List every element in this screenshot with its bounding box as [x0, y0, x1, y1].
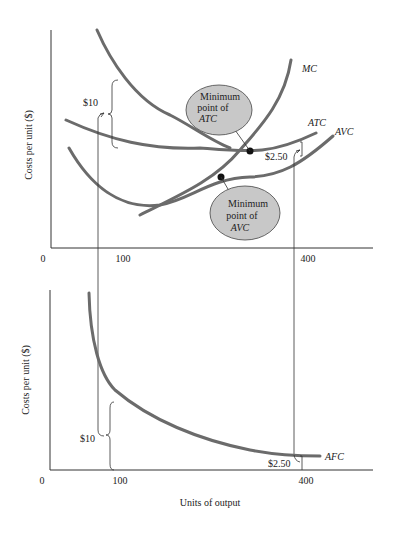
afc-400-label: $2.50 [268, 458, 291, 469]
top-tick-400: 400 [301, 253, 316, 264]
afc-curve [89, 293, 320, 456]
top-panel: Costs per unit ($) 0 100 400 Minimum poi… [23, 30, 373, 264]
mc-label: MC [301, 63, 317, 74]
atc-bubble-line2: point of [197, 102, 229, 113]
avc-bubble-line1: Minimum [228, 198, 268, 209]
atc-curve [66, 120, 316, 151]
afc-100-label: $10 [80, 433, 95, 444]
afc-100-brace [106, 402, 114, 470]
connector-100-hook [98, 430, 104, 436]
connector-100-arrow [98, 113, 104, 118]
atc-bubble-line3: ATC [198, 113, 217, 124]
avc-curve [69, 136, 333, 206]
bottom-tick-400: 400 [299, 475, 314, 486]
top-y-axis-label: Costs per unit ($) [23, 110, 35, 180]
bottom-y-axis-label: Costs per unit ($) [20, 345, 32, 415]
gap-400-brace [300, 142, 302, 156]
avc-bubble-line3: AVC [230, 222, 250, 233]
atc-bubble-line1: Minimum [200, 91, 240, 102]
bottom-tick-0: 0 [40, 475, 45, 486]
avc-label: AVC [334, 126, 354, 137]
atc-label: ATC [307, 117, 326, 128]
cost-curves-diagram: Costs per unit ($) 0 100 400 Minimum poi… [0, 0, 393, 533]
bottom-tick-100: 100 [113, 475, 128, 486]
bottom-x-axis-label: Units of output [180, 497, 241, 508]
mc-marginal-cost [140, 60, 291, 215]
top-tick-0: 0 [41, 253, 46, 264]
avc-bubble-line2: point of [226, 210, 258, 221]
afc-400-brace [300, 456, 302, 470]
gap-100-label: $10 [83, 97, 98, 108]
afc-label: AFC [324, 451, 344, 462]
top-tick-100: 100 [116, 253, 131, 264]
gap-400-label: $2.50 [265, 151, 288, 162]
connector-400-arrow [294, 150, 300, 157]
bottom-panel: Costs per unit ($) 0 100 400 Units of ou… [20, 290, 373, 508]
